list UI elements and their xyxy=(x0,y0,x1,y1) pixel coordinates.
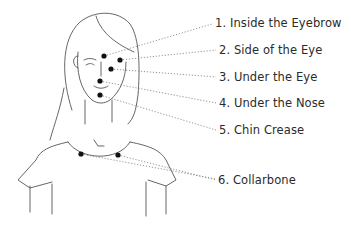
label-under-eye: 3. Under the Eye xyxy=(219,70,317,84)
label-chin-crease: 5. Chin Crease xyxy=(219,123,304,137)
point-dot-6a xyxy=(78,151,83,156)
point-dot-5 xyxy=(97,92,102,97)
point-dot-3 xyxy=(108,66,113,71)
woman-illustration xyxy=(0,0,351,228)
point-dot-2 xyxy=(117,57,122,62)
label-collarbone: 6. Collarbone xyxy=(218,173,296,187)
label-inside-eyebrow: 1. Inside the Eyebrow xyxy=(215,16,342,30)
label-under-nose: 4. Under the Nose xyxy=(219,96,325,110)
label-side-of-eye: 2. Side of the Eye xyxy=(219,43,322,57)
point-dot-1 xyxy=(101,53,106,58)
point-dot-4 xyxy=(97,78,102,83)
point-dot-6b xyxy=(115,152,120,157)
